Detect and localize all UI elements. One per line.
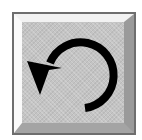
- undo-button[interactable]: Undo: [12, 12, 136, 135]
- button-face: [22, 22, 124, 123]
